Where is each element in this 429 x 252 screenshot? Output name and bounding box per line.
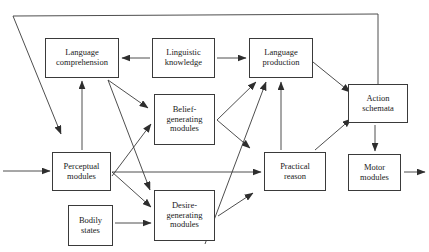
- node-desire-generating-modules[interactable]: Desire- generating modules: [154, 190, 215, 241]
- node-language-comprehension[interactable]: Language comprehension: [45, 38, 119, 78]
- node-label: Bodily states: [77, 216, 104, 235]
- node-label: Desire- generating modules: [165, 201, 205, 230]
- node-perceptual-modules[interactable]: Perceptual modules: [52, 152, 111, 191]
- node-language-production[interactable]: Language production: [249, 38, 313, 78]
- edge-comprehension-to-belief: [108, 80, 148, 108]
- edge-belief-to-practical-reason: [217, 120, 250, 148]
- node-bodily-states[interactable]: Bodily states: [68, 205, 113, 246]
- node-label: Language comprehension: [54, 48, 110, 67]
- node-label: Belief- generating modules: [165, 105, 205, 134]
- node-label: Practical reason: [278, 162, 312, 181]
- node-belief-generating-modules[interactable]: Belief- generating modules: [154, 94, 215, 145]
- node-practical-reason[interactable]: Practical reason: [264, 152, 326, 191]
- node-label: Action schemata: [360, 94, 396, 113]
- edge-practical-reason-to-action: [315, 119, 351, 150]
- edge-perceptual-to-belief: [112, 124, 151, 176]
- edge-belief-to-production: [217, 82, 256, 120]
- node-label: Language production: [261, 48, 302, 67]
- edge-production-to-action: [313, 62, 350, 92]
- node-label: Linguistic knowledge: [163, 48, 204, 67]
- node-label: Perceptual modules: [62, 162, 102, 181]
- node-label: Motor modules: [358, 163, 391, 182]
- node-linguistic-knowledge[interactable]: Linguistic knowledge: [152, 38, 215, 78]
- flow-diagram: Language comprehension Linguistic knowle…: [0, 0, 429, 252]
- node-action-schemata[interactable]: Action schemata: [348, 84, 408, 123]
- node-motor-modules[interactable]: Motor modules: [348, 154, 401, 191]
